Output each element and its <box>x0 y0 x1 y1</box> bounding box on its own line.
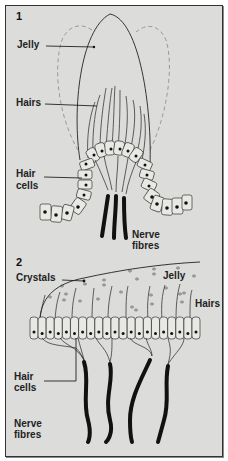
label-hair-cells-panel2-l2: cells <box>14 382 37 393</box>
label-hair-cells-panel2-l1: Hair <box>14 371 34 382</box>
hair-cell <box>143 317 151 339</box>
hair-cell-nucleus <box>33 331 36 334</box>
hair-cell-nucleus <box>146 331 149 334</box>
ear-receptor-diagram: 1 <box>0 0 228 461</box>
hair-cell-nucleus <box>186 332 189 335</box>
hair-cell-nucleus <box>73 332 76 335</box>
leader-hairs-panel1 <box>45 104 97 106</box>
hair-cell-nucleus <box>170 332 173 335</box>
hair-cell-nucleus <box>49 331 52 334</box>
hair-cell-nucleus <box>130 331 133 334</box>
label-crystals-panel2: Crystals <box>16 272 56 283</box>
hair-cell-nucleus <box>89 332 92 335</box>
hair-cell <box>79 317 87 339</box>
panel1-number: 1 <box>16 10 22 22</box>
hair-cell-nucleus <box>57 332 60 335</box>
hair-cell-nucleus <box>65 331 68 334</box>
hair-cell-nucleus <box>122 332 125 335</box>
label-jelly-panel1: Jelly <box>17 39 40 50</box>
nerve-branches-panel2 <box>42 338 184 364</box>
panel2-number: 2 <box>16 256 22 268</box>
hair-cells-panel2 <box>30 317 200 339</box>
hair-cell <box>184 317 192 339</box>
hair-cell-nucleus <box>105 332 108 335</box>
hair-cell <box>127 317 135 339</box>
label-nerve-fibres-panel2-l1: Nerve <box>14 418 42 429</box>
hair-cell-nucleus <box>41 332 44 335</box>
hair-cell <box>176 317 184 339</box>
label-hair-cells-panel1-l2: cells <box>16 180 39 191</box>
hair-cell <box>54 317 62 339</box>
nerve-fibres-panel1 <box>102 196 126 238</box>
hair-cell-nucleus <box>154 332 157 335</box>
hair-cell <box>168 317 176 339</box>
hair-cell <box>46 317 54 339</box>
leader-jelly-panel1 <box>46 46 94 47</box>
leader-hair-cells-panel1 <box>44 177 82 178</box>
hair-cell <box>119 317 127 339</box>
hair-cell <box>87 317 95 339</box>
hair-cell <box>30 317 38 339</box>
hair-cell-nucleus <box>114 331 117 334</box>
nerve-fibres-panel2 <box>84 360 168 442</box>
leader-hair-cells-panel2 <box>44 338 76 381</box>
hair-cell <box>135 317 143 339</box>
hair-cell-nucleus <box>178 331 181 334</box>
label-hairs-panel2: Hairs <box>195 298 220 309</box>
hair-cell <box>71 317 79 339</box>
leader-crystals-panel2 <box>62 280 84 281</box>
label-hair-cells-panel1-l1: Hair <box>16 168 36 179</box>
cupula-deflected-left <box>58 26 92 150</box>
nerve-branches-panel1 <box>95 156 136 194</box>
label-hairs-panel1: Hairs <box>16 97 41 108</box>
hair-cell <box>152 317 160 339</box>
hair-cell <box>192 317 200 339</box>
hair-cell <box>95 317 103 339</box>
hair-cell <box>62 317 70 339</box>
hair-cell-nucleus <box>97 331 100 334</box>
hair-cell <box>103 317 111 339</box>
hair-cell <box>111 317 119 339</box>
hair-cell-nucleus <box>81 331 84 334</box>
label-nerve-fibres-panel2-l2: fibres <box>14 429 42 440</box>
label-jelly-panel2: Jelly <box>163 270 186 281</box>
hair-cell-nucleus <box>162 331 165 334</box>
hairs-panel2 <box>40 284 192 320</box>
label-nerve-fibres-panel1-l2: fibres <box>132 240 160 251</box>
hair-cell <box>160 317 168 339</box>
hair-cell-nucleus <box>138 332 141 335</box>
hair-cell-nucleus <box>195 331 198 334</box>
label-nerve-fibres-panel1-l1: Nerve <box>132 229 160 240</box>
hair-cell <box>38 317 46 339</box>
